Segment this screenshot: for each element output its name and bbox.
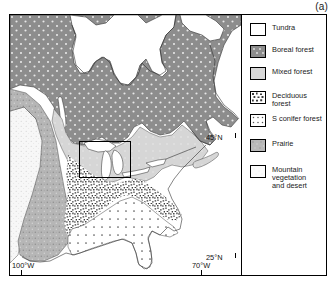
legend-swatch-mixed-forest (250, 67, 266, 80)
legend-label-deciduous-forest: Deciduous forest (272, 91, 307, 108)
legend-item-s-conifer-forest: S conifer forest (250, 114, 322, 127)
legend-swatch-mountain-vegetation (250, 165, 266, 178)
legend-item-mixed-forest: Mixed forest (250, 67, 312, 80)
map-canvas (10, 15, 241, 275)
swatch-pattern-mountain (251, 166, 265, 177)
map-legend: Tundra Boreal forest Mixed forest (242, 15, 326, 275)
inset-study-area-box (79, 141, 131, 178)
legend-swatch-deciduous-forest (250, 91, 266, 104)
panel-label: (a) (315, 1, 328, 12)
tick-mark-25n (235, 253, 236, 258)
tick-mark-70w (201, 270, 202, 275)
legend-label-s-conifer-forest: S conifer forest (272, 114, 322, 123)
swatch-pattern-deciduous (251, 92, 265, 103)
swatch-pattern-s-conifer (251, 115, 265, 126)
map-frame: Tundra Boreal forest Mixed forest (9, 14, 327, 276)
axis-tick-45n: 45°N (206, 133, 324, 142)
legend-label-boreal-forest: Boreal forest (272, 45, 314, 54)
axis-tick-100w: 100°W (12, 261, 34, 270)
legend-swatch-boreal-forest (250, 45, 266, 58)
legend-item-mountain-vegetation: Mountain vegetation and desert (250, 165, 307, 191)
legend-label-mountain-vegetation: Mountain vegetation and desert (272, 165, 307, 191)
legend-item-boreal-forest: Boreal forest (250, 45, 314, 58)
legend-swatch-s-conifer-forest (250, 114, 266, 127)
legend-swatch-tundra (250, 23, 266, 36)
legend-label-tundra: Tundra (272, 23, 295, 32)
swatch-pattern-boreal (251, 46, 265, 57)
legend-label-mixed-forest: Mixed forest (272, 67, 312, 76)
axis-tick-70w: 70°W (192, 261, 210, 270)
figure-panel: (a) (0, 0, 336, 292)
tick-mark-45n (235, 133, 236, 138)
axis-tick-25n: 25°N (206, 253, 324, 262)
legend-item-deciduous-forest: Deciduous forest (250, 91, 307, 108)
legend-item-tundra: Tundra (250, 23, 295, 36)
tick-mark-100w (21, 270, 22, 275)
